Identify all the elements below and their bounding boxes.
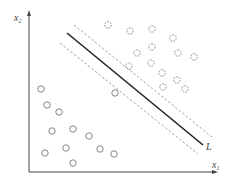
positive-point [159, 70, 165, 76]
boundary-label: L [205, 141, 212, 152]
positive-point [149, 26, 155, 32]
negative-point [111, 151, 117, 157]
positive-point [149, 44, 155, 50]
y-axis-label: x2 [13, 12, 21, 24]
positive-point [134, 50, 140, 56]
separator-lines: L [60, 25, 212, 154]
decision-boundary-line [67, 33, 203, 145]
svm-diagram: x2 x1 L [0, 0, 231, 186]
positive-point [105, 22, 111, 28]
negative-point [86, 133, 92, 139]
negative-point [112, 90, 118, 96]
x-axis-label: x1 [211, 159, 219, 171]
positive-point [182, 86, 188, 92]
negative-point [63, 145, 69, 151]
negative-point [42, 150, 48, 156]
axes: x2 x1 [13, 10, 219, 174]
lower-margin-line [60, 43, 198, 154]
negative-point [70, 160, 76, 166]
positive-point [191, 54, 197, 60]
positive-point [127, 28, 133, 34]
negative-point [38, 86, 44, 92]
positive-point [175, 50, 181, 56]
negative-class-points [38, 86, 118, 166]
negative-point [70, 126, 76, 132]
y-axis-arrow-icon [27, 10, 31, 16]
positive-point [170, 35, 176, 41]
upper-margin-line [74, 25, 212, 137]
positive-point [174, 77, 180, 83]
negative-point [56, 109, 62, 115]
negative-point [44, 102, 50, 108]
negative-point [49, 128, 55, 134]
positive-point [148, 60, 154, 66]
positive-point [160, 84, 166, 90]
positive-class-points [105, 22, 197, 92]
negative-point [97, 146, 103, 152]
